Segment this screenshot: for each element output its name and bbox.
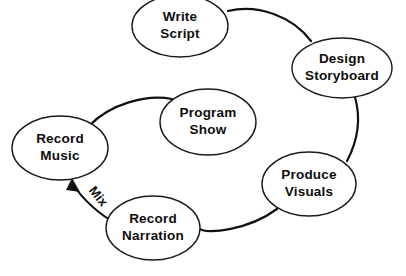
design-storyboard-label-line1: Design bbox=[319, 51, 365, 66]
diagram-canvas: Write Script Design Storyboard Produce V… bbox=[0, 0, 406, 276]
node-produce-visuals[interactable]: Produce Visuals bbox=[262, 152, 356, 216]
record-music-label-line2: Music bbox=[40, 148, 80, 163]
edge-script-to-storyboard bbox=[228, 9, 311, 41]
edge-storyboard-to-visuals bbox=[347, 97, 358, 161]
record-music-label-line1: Record bbox=[36, 131, 84, 146]
record-narration-label-line1: Record bbox=[129, 211, 177, 226]
node-record-music[interactable]: Record Music bbox=[12, 116, 108, 180]
workflow-diagram: Write Script Design Storyboard Produce V… bbox=[0, 0, 406, 276]
node-design-storyboard[interactable]: Design Storyboard bbox=[292, 38, 392, 98]
program-show-label-line2: Show bbox=[190, 122, 227, 137]
design-storyboard-label-line2: Storyboard bbox=[305, 68, 379, 83]
node-record-narration[interactable]: Record Narration bbox=[106, 196, 200, 260]
write-script-label-line2: Script bbox=[160, 26, 200, 41]
produce-visuals-label-line2: Visuals bbox=[285, 184, 333, 199]
edge-visuals-to-narration bbox=[200, 209, 277, 231]
program-show-label-line1: Program bbox=[180, 105, 237, 120]
write-script-label-line1: Write bbox=[163, 9, 198, 24]
mix-edge-label: Mix bbox=[86, 183, 112, 210]
produce-visuals-label-line1: Produce bbox=[281, 167, 337, 182]
node-write-script[interactable]: Write Script bbox=[132, 0, 228, 57]
record-narration-label-line2: Narration bbox=[122, 228, 184, 243]
node-program-show[interactable]: Program Show bbox=[160, 89, 256, 155]
